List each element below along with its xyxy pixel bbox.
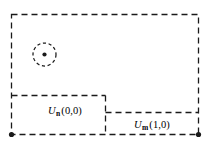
figure-canvas: Un(0,0) Um(1,0) (0, 0, 209, 155)
bottom-left-node (9, 132, 14, 137)
circle-center-dot (42, 52, 46, 56)
diagram-svg (0, 0, 209, 155)
bottom-right-node (196, 132, 201, 137)
